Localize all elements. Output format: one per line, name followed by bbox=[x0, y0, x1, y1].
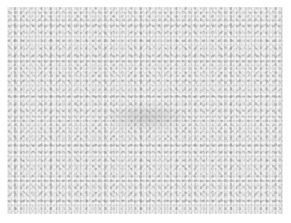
noise-texture-image bbox=[7, 7, 283, 214]
